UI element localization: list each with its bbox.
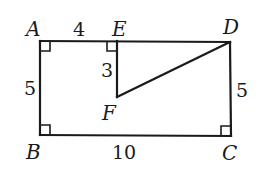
segment-bc xyxy=(40,135,231,136)
right-angle-b-icon xyxy=(40,125,50,135)
right-angle-e-icon xyxy=(107,41,117,51)
vertex-label-f: F xyxy=(101,101,117,125)
length-label-ef: 3 xyxy=(101,59,113,81)
length-label-cd: 5 xyxy=(236,79,248,101)
vertex-label-a: A xyxy=(24,17,40,41)
vertex-label-e: E xyxy=(111,17,127,41)
segment-cd xyxy=(230,42,231,136)
segment-fd xyxy=(117,42,230,97)
geometry-diagram: A E D F B C 4 5 3 10 5 xyxy=(0,0,259,169)
right-angle-c-icon xyxy=(221,126,231,136)
length-label-ae: 4 xyxy=(73,18,85,40)
length-label-bc: 10 xyxy=(112,141,136,163)
right-angle-a-icon xyxy=(40,41,50,51)
length-label-ab: 5 xyxy=(24,77,36,99)
vertex-label-b: B xyxy=(25,140,41,164)
vertex-label-d: D xyxy=(222,15,239,39)
segment-ad xyxy=(40,41,230,42)
vertex-label-c: C xyxy=(222,141,237,165)
